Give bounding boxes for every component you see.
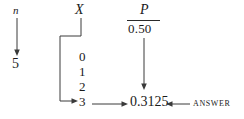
column-header-n: n xyxy=(13,5,19,16)
x-value-row-selected: 3 xyxy=(79,95,86,108)
x-value-row: 0 xyxy=(79,50,86,63)
x-value-row: 2 xyxy=(79,80,86,93)
column-header-p: P xyxy=(140,3,149,17)
answer-label: ANSWER xyxy=(193,100,230,108)
column-header-x: X xyxy=(75,3,84,17)
x-value-row: 1 xyxy=(79,65,86,78)
x-column-elbow-arrow xyxy=(60,18,81,104)
n-value: 5 xyxy=(12,57,19,71)
p-column-arrow xyxy=(141,38,147,90)
n-column-arrow xyxy=(14,18,20,56)
answer-pointer-arrow xyxy=(166,101,190,107)
row-to-result-arrow xyxy=(92,101,128,107)
probability-result: 0.3125 xyxy=(130,95,169,109)
probability-table-diagram: n 5 X 0 1 2 3 P 0.50 0.3125 ANSWER xyxy=(0,0,244,119)
p-denominator-value: 0.50 xyxy=(128,22,152,35)
